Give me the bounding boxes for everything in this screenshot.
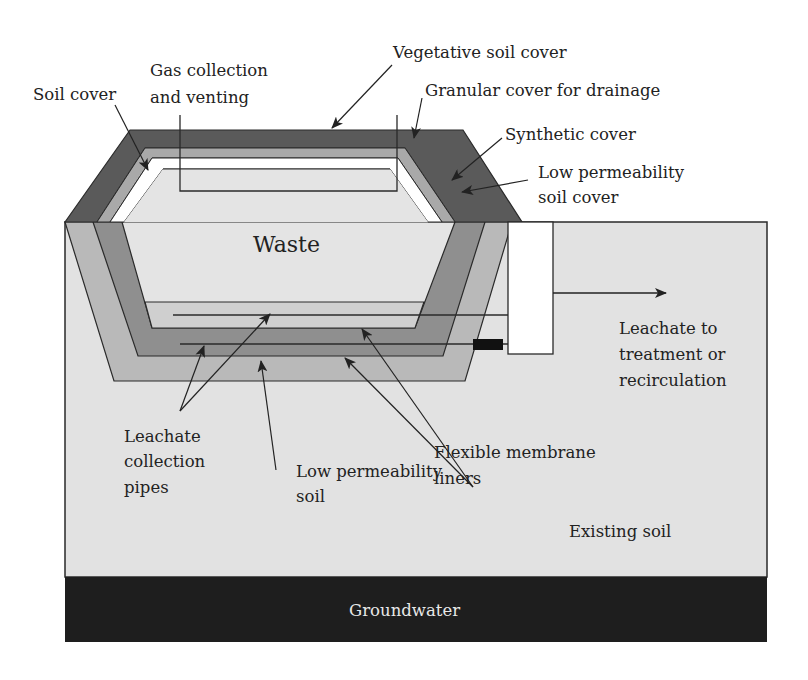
arrow-vegetative bbox=[332, 65, 392, 128]
label-low-perm-cover-2: soil cover bbox=[538, 188, 618, 207]
label-low-perm-cover-1: Low permeability bbox=[538, 163, 685, 182]
label-waste: Waste bbox=[253, 232, 320, 257]
label-granular-cover: Granular cover for drainage bbox=[425, 81, 660, 100]
label-pipes-3: pipes bbox=[124, 478, 169, 497]
label-gas-collection-2: and venting bbox=[150, 88, 250, 107]
waste-upper bbox=[124, 169, 428, 222]
label-leachate-out-3: recirculation bbox=[619, 371, 727, 390]
label-gas-collection: Gas collection bbox=[150, 61, 268, 80]
leachate-sump bbox=[508, 222, 553, 354]
label-leachate-out-1: Leachate to bbox=[619, 319, 718, 338]
label-soil-cover: Soil cover bbox=[33, 85, 116, 104]
landfill-diagram: Gas collection and venting Soil cover Ve… bbox=[0, 0, 808, 680]
label-low-perm-soil-2: soil bbox=[296, 487, 325, 506]
valve bbox=[473, 339, 503, 350]
label-existing-soil: Existing soil bbox=[569, 522, 671, 541]
label-fml-2: liners bbox=[434, 469, 481, 488]
label-pipes-2: collection bbox=[124, 452, 206, 471]
label-leachate-out-2: treatment or bbox=[619, 345, 726, 364]
label-synthetic-cover: Synthetic cover bbox=[505, 125, 636, 144]
label-vegetative-soil-cover: Vegetative soil cover bbox=[392, 43, 567, 62]
label-low-perm-soil-1: Low permeability bbox=[296, 462, 443, 481]
label-fml-1: Flexible membrane bbox=[434, 443, 596, 462]
label-groundwater: Groundwater bbox=[349, 601, 460, 620]
label-pipes-1: Leachate bbox=[124, 427, 201, 446]
